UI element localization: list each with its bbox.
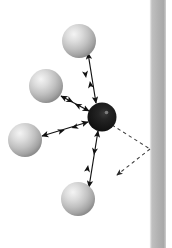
wall <box>150 0 166 248</box>
particle-left <box>8 123 42 157</box>
particle-upper-left <box>29 69 63 103</box>
particle-center-highlight <box>105 111 109 115</box>
particle-center <box>88 103 117 132</box>
central-particle <box>88 103 117 132</box>
particle-upper <box>62 24 96 58</box>
figure-root: Central particle interacting with neighb… <box>0 0 172 248</box>
particle-lower <box>61 182 95 216</box>
particle-wall-diagram-canvas <box>0 0 172 248</box>
wall-body <box>150 0 166 248</box>
